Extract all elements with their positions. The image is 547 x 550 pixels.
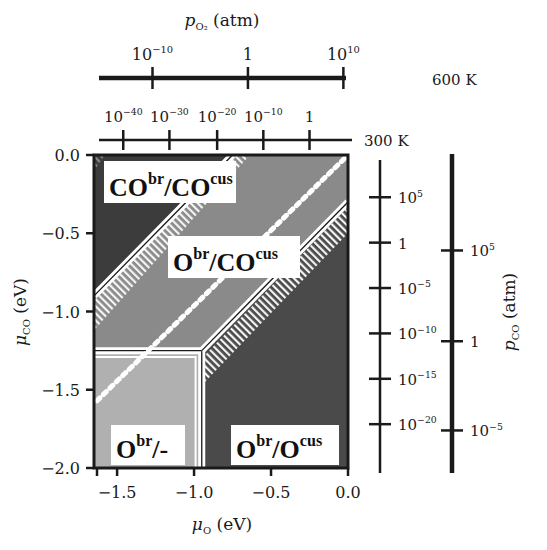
top-tick-label: 10−30 xyxy=(150,106,189,126)
right-axis-600k: 105110−5 xyxy=(441,154,503,473)
right-tick-label: 10−5 xyxy=(398,278,431,298)
right-axis-title: pCO (atm) xyxy=(499,273,521,352)
temperature-label-300k: 300 K xyxy=(364,132,409,150)
top-axis-300k: 10−4010−3010−2010−101 xyxy=(99,106,352,150)
right-tick-label: 10−20 xyxy=(398,414,437,434)
right-tick-label: 1 xyxy=(470,333,480,351)
y-tick-label: 0.0 xyxy=(55,146,80,165)
temperature-label-600k: 600 K xyxy=(432,71,477,89)
top-tick-label: 1 xyxy=(243,45,253,64)
right-pressure-axes: 105110−510−1010−1510−20105110−5 xyxy=(369,154,503,473)
top-axis-title: pO₂ (atm) xyxy=(185,10,260,32)
region-label: CObr/COcus xyxy=(104,161,236,203)
top-axis-600k: 10−1011010 xyxy=(99,44,360,89)
region-label: Obr/COcus xyxy=(168,236,300,278)
y-tick-label: −1.0 xyxy=(41,303,80,322)
top-tick-label: 1010 xyxy=(327,44,360,64)
right-axis-300k: 105110−510−1010−1510−20 xyxy=(369,160,437,473)
y-axis-label: μCO (eV) xyxy=(10,278,32,346)
top-tick-label: 10−10 xyxy=(244,106,283,126)
x-tick-label: −0.5 xyxy=(252,483,291,502)
x-tick-label: −1.0 xyxy=(175,483,214,502)
region-label: Obr/- xyxy=(111,425,185,465)
plot-area: CObr/COcusObr/COcusObr/-Obr/Ocus xyxy=(94,152,348,468)
y-tick-label: −1.5 xyxy=(41,381,80,400)
right-tick-label: 1 xyxy=(398,235,408,253)
right-tick-label: 10−5 xyxy=(470,421,503,441)
y-tick-label: −0.5 xyxy=(41,224,80,243)
x-tick-label: 0.0 xyxy=(335,483,360,502)
top-tick-label: 10−10 xyxy=(132,44,173,64)
y-tick-label: −2.0 xyxy=(41,459,80,478)
x-axis-label: μO (eV) xyxy=(192,514,252,536)
top-tick-label: 1 xyxy=(305,108,315,126)
right-tick-label: 10−15 xyxy=(398,369,437,389)
right-tick-label: 105 xyxy=(398,188,423,208)
right-tick-label: 10−10 xyxy=(398,324,437,344)
right-tick-label: 105 xyxy=(470,241,495,261)
region-label: Obr/Ocus xyxy=(231,425,339,465)
top-tick-label: 10−40 xyxy=(104,106,143,126)
x-tick-label: −1.5 xyxy=(98,483,137,502)
phase-diagram-chart: pO₂ (atm) 10−101101010−4010−3010−2010−10… xyxy=(0,0,547,550)
top-pressure-axes: 10−101101010−4010−3010−2010−101 xyxy=(99,44,360,150)
top-tick-label: 10−20 xyxy=(198,106,237,126)
